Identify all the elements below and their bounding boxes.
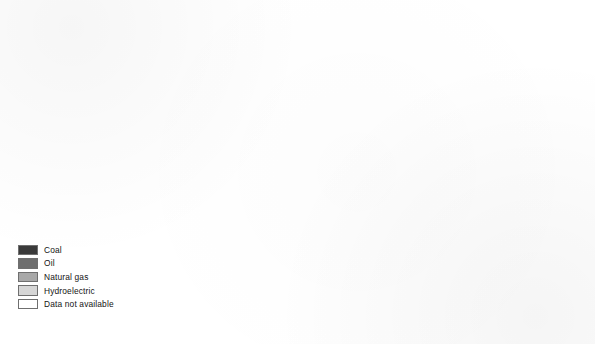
legend-swatch-no-data: [18, 299, 38, 310]
legend-item-natural-gas[interactable]: Natural gas: [18, 270, 150, 284]
legend-swatch-natural-gas: [18, 272, 38, 283]
map-figure: .land{stroke:#2a2a2a;stroke-width:.45;st…: [0, 0, 595, 344]
legend-label-coal: Coal: [44, 246, 62, 254]
legend-label-no-data: Data not available: [44, 300, 114, 308]
legend-item-no-data[interactable]: Data not available: [18, 297, 150, 311]
legend-item-coal[interactable]: Coal: [18, 243, 150, 257]
legend-label-oil: Oil: [44, 259, 55, 267]
map-legend: Coal Oil Natural gas Hydroelectric Data …: [18, 243, 150, 311]
legend-swatch-hydroelectric: [18, 285, 38, 296]
legend-swatch-coal: [18, 245, 38, 256]
legend-item-hydroelectric[interactable]: Hydroelectric: [18, 284, 150, 298]
legend-swatch-oil: [18, 258, 38, 269]
legend-label-natural-gas: Natural gas: [44, 273, 88, 281]
legend-item-oil[interactable]: Oil: [18, 257, 150, 271]
legend-label-hydroelectric: Hydroelectric: [44, 287, 95, 295]
